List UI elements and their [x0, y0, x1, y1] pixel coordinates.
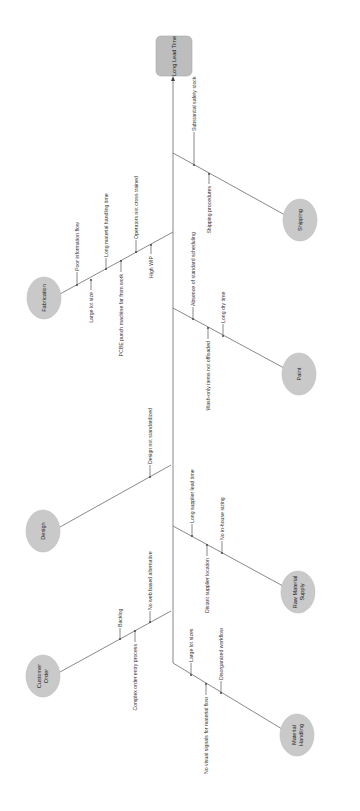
cause-label-material-handling-1: Material — [291, 725, 297, 745]
cause-label-paint: Paint — [296, 367, 302, 380]
branch-material-handling: Material Handling Large lot sizes No vis… — [173, 628, 314, 774]
cause-label-design: Design — [40, 522, 46, 539]
cause-label-customer-order-2: Order — [43, 669, 49, 683]
cause-item: Shipping procedures — [206, 186, 212, 234]
branch-design: Design Design not standardized — [26, 408, 171, 552]
cause-item: PCBE punch machine far from work — [118, 274, 124, 357]
cause-item: Complex order entry process — [132, 644, 138, 711]
cause-label-raw-material-supply-1: Raw Material — [292, 576, 298, 609]
cause-label-material-handling-2: Handling — [298, 724, 304, 746]
cause-item: Substantial safety stock — [191, 76, 197, 131]
branch-shipping: Shipping Substantial safety stock Shippi… — [173, 76, 317, 241]
cause-item: Long dry time — [220, 291, 226, 323]
cause-label-fabrication: Fabrication — [41, 284, 47, 312]
cause-item: Long supplier lead time — [189, 469, 195, 523]
cause-item: Wash-only items not offloaded — [205, 341, 211, 411]
cause-item: Long material handling time — [103, 193, 109, 257]
cause-item: No visual signals for material flow — [203, 697, 209, 774]
cause-label-shipping: Shipping — [297, 209, 303, 231]
effect-box: Long Lead Time — [156, 36, 192, 76]
cause-item: Large lot size — [88, 292, 94, 323]
cause-item: High WIP — [148, 255, 154, 277]
cause-item: Poor information flow — [74, 222, 80, 271]
cause-item: Absence of standard scheduling — [190, 232, 196, 306]
branch-paint: Paint Absence of standard scheduling Was… — [173, 232, 316, 410]
effect-label: Long Lead Time — [171, 36, 177, 76]
cause-item: Design not standardized — [147, 408, 153, 464]
branch-customer-order: Customer Order Backlog Complex order ent… — [26, 551, 171, 710]
cause-item: No in-house sizing — [219, 497, 225, 540]
branch-raw-material-supply: Raw Material Supply Long supplier lead t… — [173, 469, 315, 613]
cause-label-customer-order-1: Customer — [36, 664, 42, 688]
cause-label-raw-material-supply-2: Supply — [299, 583, 305, 600]
fishbone-diagram: Long Lead Time Shipping Substantial safe… — [0, 0, 360, 811]
cause-item: Operators not cross trained — [133, 176, 139, 239]
cause-item: Distant supplier location — [204, 558, 210, 613]
cause-item: Disorganized workflow — [218, 628, 224, 680]
cause-item: Backlog — [117, 608, 123, 627]
branch-fabrication: Fabrication Poor information flow Long m… — [27, 176, 173, 356]
cause-item: No web based alternative — [147, 551, 153, 610]
cause-item: Large lot sizes — [188, 628, 194, 662]
